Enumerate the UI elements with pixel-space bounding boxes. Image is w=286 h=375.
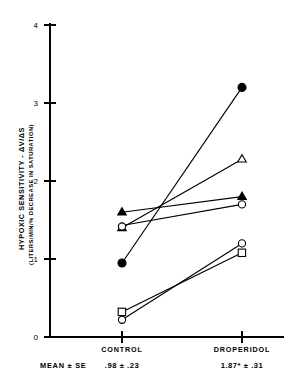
marker-open-circle-droperidol-4 [238, 201, 245, 208]
marker-open-circle-droperidol-5 [238, 240, 245, 247]
marker-open-circle-control-5 [118, 316, 125, 323]
x-category-label-control: CONTROL [101, 345, 142, 354]
y-tick-label-0: 0 [34, 333, 39, 342]
y-axis-sublabel: (LITERS/MIN/% DECREASE IN SATURATION) [28, 124, 34, 265]
marker-open-triangle-droperidol [238, 155, 247, 162]
marker-open-square-droperidol [238, 249, 245, 256]
marker-filled-circle-droperidol [238, 83, 246, 91]
markers-droperidol [238, 83, 247, 256]
series-line-subject-3 [122, 197, 242, 213]
marker-filled-circle-control [118, 259, 126, 267]
summary-value-control: .98 ± .23 [105, 361, 139, 370]
marker-open-square-control [118, 308, 125, 315]
series-line-subject-4 [122, 204, 242, 225]
series-line-subject-1 [122, 87, 242, 263]
y-tick-label-3: 3 [34, 99, 39, 108]
y-tick-label-4: 4 [34, 21, 39, 30]
y-tick-label-1: 1 [34, 255, 39, 264]
series-lines [122, 87, 242, 319]
marker-filled-triangle-droperidol [238, 192, 247, 199]
y-tick-label-2: 2 [34, 177, 39, 186]
x-category-label-droperidol: DROPERIDOL [214, 345, 270, 354]
summary-value-droperidol: 1.87* ± .31 [221, 361, 264, 370]
y-axis-label: HYPOXIC SENSITIVITY - ΔV/ΔS [17, 127, 26, 250]
marker-open-circle-control-4 [118, 223, 125, 230]
series-line-subject-6 [122, 253, 242, 312]
hypoxic-sensitivity-chart: HYPOXIC SENSITIVITY - ΔV/ΔS (LITERS/MIN/… [0, 0, 286, 375]
series-line-subject-5 [122, 243, 242, 319]
markers-control [118, 208, 127, 324]
summary-row-label: MEAN ± SE [40, 361, 87, 370]
series-line-subject-2 [122, 159, 242, 228]
